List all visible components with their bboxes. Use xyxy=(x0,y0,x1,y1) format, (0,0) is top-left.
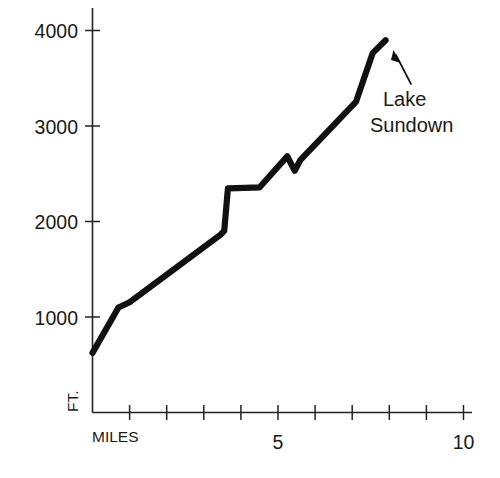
elevation-profile-line xyxy=(93,40,386,353)
y-tick-label-2000: 2000 xyxy=(35,211,79,233)
y-axis-title: FT. xyxy=(64,390,81,412)
annotation-line-1: Lake xyxy=(383,88,426,110)
lake-sundown-callout-arrow xyxy=(391,50,411,84)
callout-arrow-head xyxy=(391,50,401,63)
chart-screenshot: 4000 3000 2000 1000 5 10 MILES FT. xyxy=(0,0,500,478)
y-tick-label-3000: 3000 xyxy=(35,116,79,138)
y-tick-label-1000: 1000 xyxy=(35,307,79,329)
annotation-line-2: Sundown xyxy=(370,114,453,136)
axes-group xyxy=(93,8,473,413)
x-axis-title: MILES xyxy=(92,428,139,445)
x-tick-label-10: 10 xyxy=(453,431,475,453)
x-tick-labels: 5 10 xyxy=(273,431,475,453)
y-tick-labels: 4000 3000 2000 1000 xyxy=(35,20,79,329)
y-tick-label-4000: 4000 xyxy=(35,20,79,42)
elevation-profile-chart: 4000 3000 2000 1000 5 10 MILES FT. xyxy=(0,0,500,478)
x-tick-label-5: 5 xyxy=(273,431,284,453)
lake-sundown-annotation: Lake Sundown xyxy=(370,88,453,136)
